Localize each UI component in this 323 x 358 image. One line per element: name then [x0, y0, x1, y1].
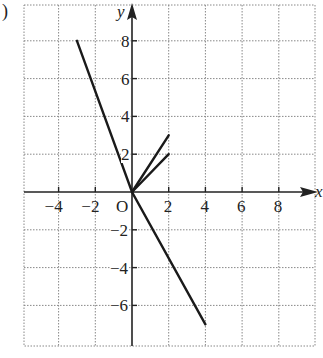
y-tick-label: −4: [110, 260, 128, 277]
series-line-2: [132, 135, 169, 192]
y-tick-label: 6: [121, 71, 130, 88]
x-tick-label: −4: [45, 198, 63, 215]
y-tick-label: 4: [121, 108, 130, 125]
x-tick-label: 6: [237, 198, 246, 215]
y-axis-label: y: [117, 3, 125, 20]
y-tick-label: −2: [110, 222, 128, 239]
x-tick-label: 4: [200, 198, 209, 215]
grid-border: [24, 5, 315, 346]
x-tick-label: 8: [274, 198, 283, 215]
x-tick-label: −2: [81, 198, 99, 215]
y-tick-label: 8: [121, 33, 130, 50]
y-tick-label: 2: [121, 146, 130, 163]
y-tick-label: −6: [110, 297, 128, 314]
x-axis-label: x: [315, 183, 323, 200]
series-line-3: [132, 154, 169, 192]
origin-label: O: [116, 198, 128, 215]
x-tick-label: 2: [164, 198, 173, 215]
